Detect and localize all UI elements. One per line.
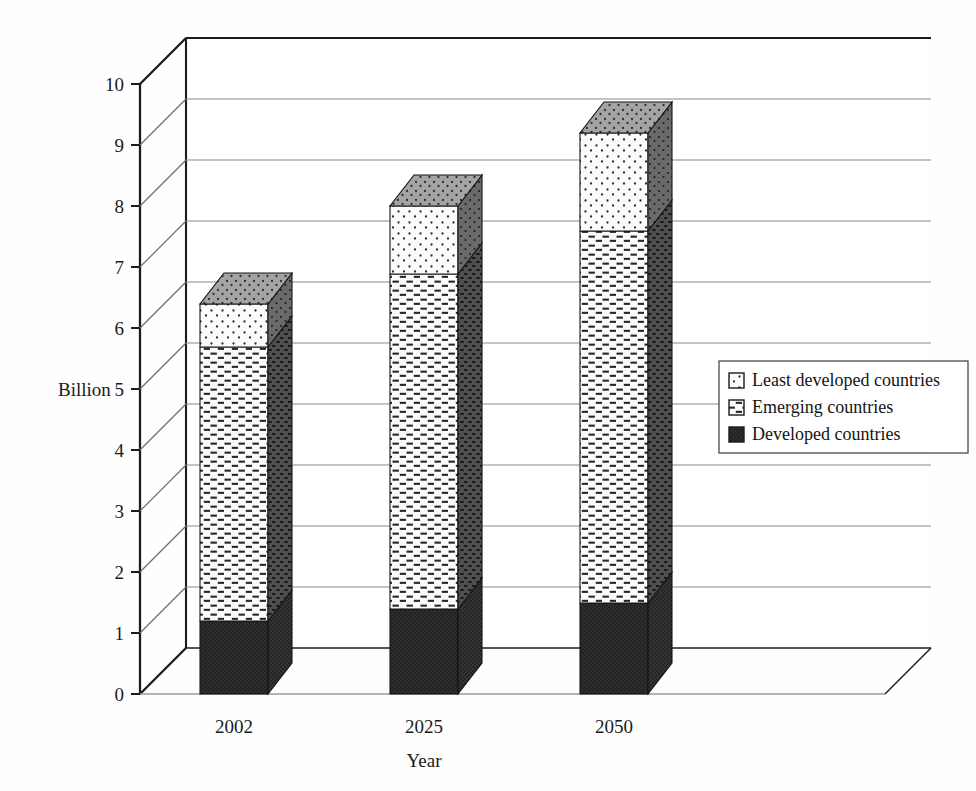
y-axis-title: Billion (58, 379, 111, 400)
y-tick-7: 7 (115, 257, 125, 278)
legend-swatch-sparse-dots-icon (729, 373, 744, 388)
legend-item-emerging-countries[interactable]: Emerging countries (729, 397, 893, 417)
legend-label-least-developed-countries: Least developed countries (752, 370, 940, 390)
y-tick-8: 8 (115, 196, 125, 217)
legend-item-least-developed-countries[interactable]: Least developed countries (729, 370, 940, 390)
y-tick-5: 5 (115, 379, 125, 400)
legend-item-developed-countries[interactable]: Developed countries (729, 424, 900, 444)
y-tick-10: 10 (105, 74, 124, 95)
legend-swatch-dashed-hatch-icon (729, 400, 744, 415)
y-tick-0: 0 (115, 684, 125, 705)
y-tick-6: 6 (115, 318, 125, 339)
bar-segment-least-developed-2025[interactable] (390, 175, 482, 274)
x-tick-2050: 2050 (595, 716, 633, 737)
bar-segment-emerging-2050[interactable] (580, 200, 672, 603)
x-axis-title: Year (406, 750, 442, 771)
chart-legend[interactable]: Least developed countries Emerging count… (719, 361, 968, 453)
bar-group-2025[interactable] (390, 175, 482, 694)
y-tick-2: 2 (115, 562, 125, 583)
y-tick-1: 1 (115, 623, 125, 644)
bar-group-2050[interactable] (580, 102, 672, 694)
stacked-column-chart-3d: 10 9 8 7 6 5 4 3 2 1 0 Billion (0, 0, 976, 791)
bar-group-2002[interactable] (200, 273, 292, 694)
legend-label-developed-countries: Developed countries (752, 424, 900, 444)
bar-segment-emerging-2025[interactable] (390, 243, 482, 609)
x-tick-2025: 2025 (405, 716, 443, 737)
y-tick-4: 4 (115, 440, 125, 461)
x-tick-2002: 2002 (215, 716, 253, 737)
legend-swatch-solid-dark-icon (729, 427, 744, 442)
y-tick-9: 9 (115, 135, 125, 156)
x-tick-labels: 2002 2025 2050 (215, 716, 633, 737)
chart-figure: 10 9 8 7 6 5 4 3 2 1 0 Billion (0, 0, 976, 791)
y-tick-3: 3 (115, 501, 125, 522)
bar-segment-emerging-2002[interactable] (200, 316, 292, 621)
bar-segment-least-developed-2050[interactable] (580, 102, 672, 231)
legend-label-emerging-countries: Emerging countries (752, 397, 893, 417)
